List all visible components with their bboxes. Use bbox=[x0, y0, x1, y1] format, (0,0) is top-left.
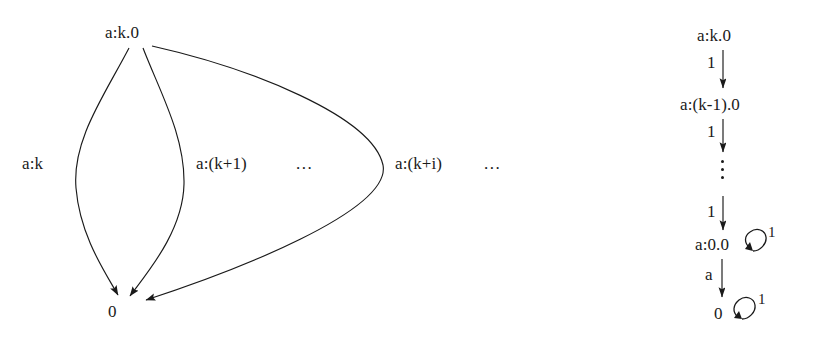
node-label-ak0-right: a:k.0 bbox=[697, 27, 731, 44]
node-label-a00: a:0.0 bbox=[695, 236, 729, 253]
edge-label-ak-plus-1: a:(k+1) bbox=[196, 155, 247, 172]
node-label-zero-left: 0 bbox=[108, 303, 117, 320]
edge-label-r1: 1 bbox=[707, 54, 716, 71]
self-loop-a00-shape bbox=[745, 230, 766, 251]
edge-label-ak-plus-i: a:(k+i) bbox=[395, 155, 442, 172]
self-loop-label-a00: 1 bbox=[768, 225, 776, 240]
edge-label-r3: 1 bbox=[707, 203, 716, 220]
node-label-zero-right: 0 bbox=[714, 305, 723, 322]
edge-aki bbox=[146, 46, 383, 300]
edge-ak bbox=[76, 48, 129, 295]
left-diagram-edges bbox=[76, 46, 384, 300]
self-loop-zero-shape bbox=[734, 298, 755, 319]
ellipsis-right: ... bbox=[484, 155, 501, 172]
edge-label-r4: a bbox=[705, 266, 713, 283]
vertical-ellipsis-icon bbox=[721, 160, 724, 184]
ellipsis-middle: ... bbox=[296, 155, 313, 172]
edge-ak1 bbox=[130, 48, 184, 296]
figure-canvas: a:k.0 0 a:k a:(k+1) ... a:(k+i) ... a:k.… bbox=[0, 0, 819, 348]
edge-label-ak: a:k bbox=[22, 155, 43, 172]
edge-label-r2: 1 bbox=[707, 123, 716, 140]
node-label-ak-minus-1: a:(k-1).0 bbox=[680, 96, 740, 113]
self-loop-label-zero: 1 bbox=[758, 292, 766, 307]
diagram-vector-layer bbox=[0, 0, 819, 348]
node-label-top-left: a:k.0 bbox=[105, 24, 139, 41]
